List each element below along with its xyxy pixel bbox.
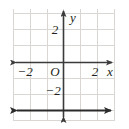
coordinate-plane-figure: −2 2 2 −2 O x y xyxy=(0,0,129,129)
x-tick-label-negative-2: −2 xyxy=(17,64,33,79)
x-tick-label-2: 2 xyxy=(92,64,99,79)
x-axis-label: x xyxy=(106,64,113,79)
origin-label: O xyxy=(50,64,60,79)
graph-canvas: −2 2 2 −2 O x y xyxy=(0,0,129,129)
y-tick-label-negative-2: −2 xyxy=(45,83,61,98)
y-tick-label-2: 2 xyxy=(52,22,59,37)
y-axis-label: y xyxy=(68,10,76,25)
